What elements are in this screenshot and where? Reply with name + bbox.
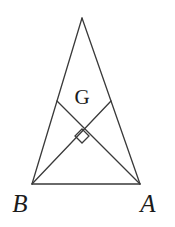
- vertex-label-b: B: [12, 191, 27, 216]
- geometry-figure: G B A: [0, 0, 175, 227]
- centroid-label-g: G: [74, 87, 89, 108]
- vertex-label-a: A: [140, 191, 155, 216]
- median-lines: [32, 101, 140, 184]
